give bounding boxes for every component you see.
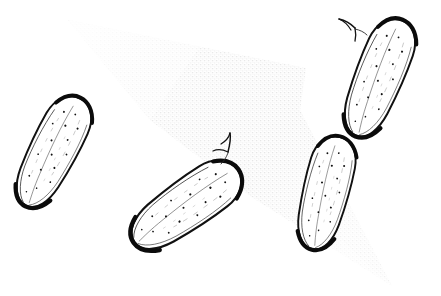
cucumbers-scene: [0, 0, 441, 296]
illustration-canvas: Cucumbers: [0, 0, 441, 296]
